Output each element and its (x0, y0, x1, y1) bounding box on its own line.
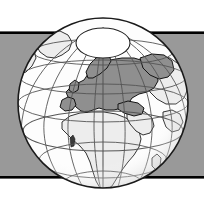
globe-svg-canvas: Orthographic globe locator map centred o… (0, 0, 204, 204)
limb-shading (18, 18, 188, 188)
globe-locator-figure: Orthographic globe locator map centred o… (0, 0, 204, 204)
